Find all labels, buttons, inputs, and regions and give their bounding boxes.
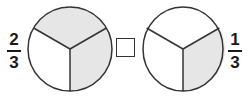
right-pie-circle xyxy=(141,5,225,93)
right-denominator: 3 xyxy=(227,54,243,71)
left-fraction: 2 3 xyxy=(6,31,22,71)
left-denominator: 3 xyxy=(6,54,22,71)
left-pie-circle xyxy=(26,5,114,93)
comparison-answer-box[interactable] xyxy=(116,38,135,57)
left-numerator: 2 xyxy=(6,31,22,48)
right-fraction: 1 3 xyxy=(227,31,243,71)
right-numerator: 1 xyxy=(227,31,243,48)
fraction-bar xyxy=(228,50,242,52)
fraction-bar xyxy=(7,50,21,52)
